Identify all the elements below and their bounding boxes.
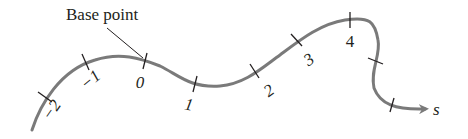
diagram-svg: Base point −2 −1 0 1 2 3 4 s xyxy=(0,0,468,139)
arc-length-axis-label: s xyxy=(433,100,440,119)
tick-label-3: 3 xyxy=(299,49,318,70)
base-point-label: Base point xyxy=(66,5,139,24)
tick-label-1: 1 xyxy=(183,94,195,114)
tick-label-0: 0 xyxy=(136,73,145,92)
base-point-leader-line xyxy=(107,28,143,58)
tick-label-minus-2: −2 xyxy=(38,96,65,124)
arc-length-diagram: Base point −2 −1 0 1 2 3 4 s xyxy=(0,0,468,139)
tick-label-minus-1: −1 xyxy=(77,66,105,93)
tick-label-4: 4 xyxy=(346,32,355,51)
tick-label-2: 2 xyxy=(260,80,278,101)
